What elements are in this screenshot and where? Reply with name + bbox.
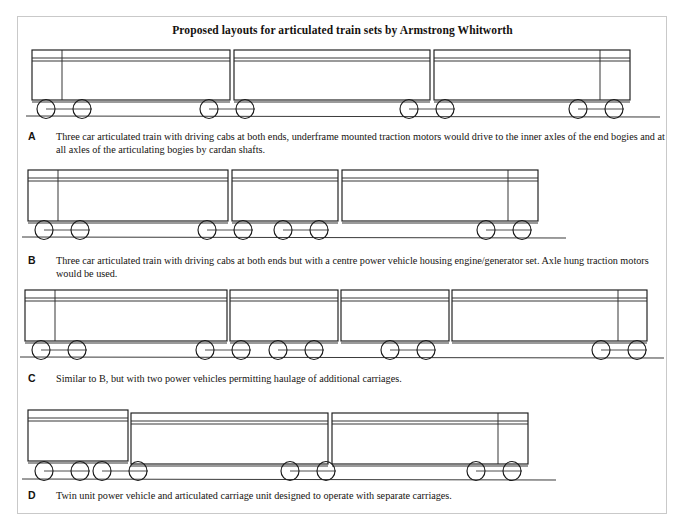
car-a-2 [234, 50, 430, 102]
caption-letter-c: C [28, 372, 50, 385]
car-a-3 [434, 50, 630, 102]
car-c-3 [341, 290, 449, 343]
car-d-3 [332, 413, 528, 466]
figure-page: Proposed layouts for articulated train s… [0, 0, 685, 531]
caption-text-c: Similar to B, but with two power vehicle… [56, 372, 674, 385]
figure-title: Proposed layouts for articulated train s… [0, 24, 685, 36]
caption-d: D Twin unit power vehicle and articulate… [28, 489, 674, 502]
caption-letter-b: B [28, 254, 50, 267]
caption-letter-a: A [28, 130, 50, 143]
car-d-2 [131, 413, 328, 466]
car-b-2 [232, 170, 338, 223]
car-c-4 [452, 290, 647, 343]
car-a-1 [32, 50, 230, 102]
rail-line-b [22, 237, 566, 238]
caption-text-d: Twin unit power vehicle and articulated … [56, 489, 674, 502]
train-diagram-a [0, 40, 685, 125]
car-b-1 [28, 170, 228, 223]
caption-letter-d: D [28, 489, 50, 502]
car-d-1 [28, 410, 128, 463]
car-b-3 [342, 170, 538, 223]
car-c-2 [230, 290, 338, 343]
rail-line-c [20, 357, 664, 358]
caption-c: C Similar to B, but with two power vehic… [28, 372, 674, 385]
train-diagram-c [0, 280, 685, 365]
train-diagram-d [0, 400, 685, 485]
rail-line-a [26, 116, 660, 117]
caption-a: A Three car articulated train with drivi… [28, 130, 674, 156]
caption-b: B Three car articulated train with drivi… [28, 254, 674, 280]
rail-line-d [22, 479, 556, 480]
bogie-d-1 [35, 462, 90, 481]
caption-text-a: Three car articulated train with driving… [56, 130, 674, 156]
car-c-1 [25, 290, 227, 343]
train-diagram-b [0, 160, 685, 245]
caption-text-b: Three car articulated train with driving… [56, 254, 674, 280]
